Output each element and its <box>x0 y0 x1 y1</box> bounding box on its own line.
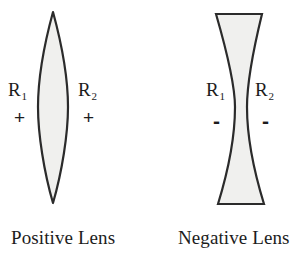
positive-lens-r1-sign: + <box>14 108 25 127</box>
negative-lens-panel: R1 R2 - - <box>152 0 304 261</box>
positive-lens-panel: R1 R2 + + <box>0 0 152 261</box>
r1-symbol: R <box>8 79 21 100</box>
negative-lens-r2-sign: - <box>262 110 269 131</box>
r1-subscript: 1 <box>219 90 225 102</box>
positive-lens-r2-label: R2 <box>78 80 97 99</box>
positive-lens-r2-sign: + <box>83 108 94 127</box>
positive-lens-r1-label: R1 <box>8 80 27 99</box>
negative-lens-r2-label: R2 <box>255 80 274 99</box>
r1-subscript: 1 <box>21 90 27 102</box>
r2-subscript: 2 <box>268 90 274 102</box>
r2-symbol: R <box>78 79 91 100</box>
negative-lens-shape <box>152 0 304 215</box>
negative-lens-r1-sign: - <box>213 110 220 131</box>
negative-lens-caption: Negative Lens <box>178 228 290 249</box>
r2-subscript: 2 <box>91 90 97 102</box>
positive-lens-caption: Positive Lens <box>11 228 115 249</box>
r1-symbol: R <box>206 79 219 100</box>
lens-sign-convention-figure: R1 R2 + + Positive Lens R1 R2 - - Negati… <box>0 0 304 261</box>
negative-lens-r1-label: R1 <box>206 80 225 99</box>
r2-symbol: R <box>255 79 268 100</box>
